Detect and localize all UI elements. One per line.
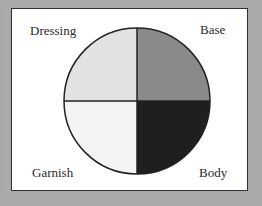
- label-garnish: Garnish: [32, 165, 73, 181]
- quadrant-body: [137, 101, 210, 174]
- label-body: Body: [199, 165, 227, 181]
- quadrant-garnish: [64, 101, 137, 174]
- quadrant-base: [137, 28, 210, 101]
- label-dressing: Dressing: [30, 23, 76, 39]
- label-base: Base: [200, 22, 225, 38]
